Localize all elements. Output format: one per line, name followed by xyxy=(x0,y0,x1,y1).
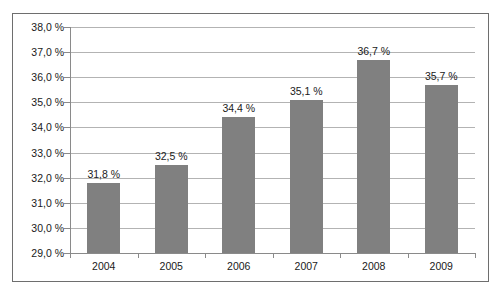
x-axis-tick-mark xyxy=(138,253,139,258)
bar-value-label-2005: 32,5 % xyxy=(141,151,201,162)
gridline xyxy=(70,102,475,103)
y-axis-tick-mark xyxy=(64,77,70,78)
bar-2009[interactable] xyxy=(425,85,458,253)
gridline xyxy=(70,52,475,53)
x-axis-label-2004: 2004 xyxy=(74,261,134,272)
y-axis-line xyxy=(70,27,71,254)
bar-2007[interactable] xyxy=(290,100,323,253)
bar-2005[interactable] xyxy=(155,165,188,253)
x-axis-tick-mark xyxy=(340,253,341,258)
x-axis-tick-mark xyxy=(273,253,274,258)
y-axis-tick-label: 35,0 % xyxy=(6,97,64,108)
bar-value-label-2006: 34,4 % xyxy=(209,103,269,114)
y-axis-tick-mark xyxy=(64,27,70,28)
gridline xyxy=(70,127,475,128)
plot-area xyxy=(70,27,475,253)
bar-2008[interactable] xyxy=(357,60,390,253)
y-axis-tick-mark xyxy=(64,228,70,229)
gridline xyxy=(70,27,475,28)
x-axis-label-2007: 2007 xyxy=(276,261,336,272)
y-axis-tick-mark xyxy=(64,178,70,179)
bar-value-label-2008: 36,7 % xyxy=(344,46,404,57)
y-axis-tick-labels: 38,0 %37,0 %36,0 %35,0 %34,0 %33,0 %32,0… xyxy=(4,0,64,294)
bar-2006[interactable] xyxy=(222,117,255,253)
y-axis-tick-label: 33,0 % xyxy=(6,148,64,159)
x-axis-label-2005: 2005 xyxy=(141,261,201,272)
x-axis-tick-mark xyxy=(475,253,476,258)
y-axis-tick-mark xyxy=(64,102,70,103)
gridline xyxy=(70,228,475,229)
y-axis-tick-label: 29,0 % xyxy=(6,248,64,259)
y-axis-tick-mark xyxy=(64,52,70,53)
x-axis-label-2009: 2009 xyxy=(411,261,471,272)
y-axis-tick-mark xyxy=(64,127,70,128)
bar-chart-figure: 38,0 %37,0 %36,0 %35,0 %34,0 %33,0 %32,0… xyxy=(0,0,501,294)
x-axis-tick-mark xyxy=(205,253,206,258)
y-axis-tick-label: 32,0 % xyxy=(6,173,64,184)
bar-value-label-2007: 35,1 % xyxy=(276,86,336,97)
y-axis-tick-label: 37,0 % xyxy=(6,47,64,58)
gridline xyxy=(70,203,475,204)
bar-2004[interactable] xyxy=(87,183,120,253)
x-axis-tick-mark xyxy=(408,253,409,258)
y-axis-tick-label: 36,0 % xyxy=(6,72,64,83)
bar-value-label-2004: 31,8 % xyxy=(74,169,134,180)
y-axis-tick-label: 34,0 % xyxy=(6,122,64,133)
x-axis-label-2008: 2008 xyxy=(344,261,404,272)
y-axis-tick-label: 30,0 % xyxy=(6,223,64,234)
y-axis-tick-mark xyxy=(64,153,70,154)
y-axis-tick-label: 31,0 % xyxy=(6,198,64,209)
x-axis-label-2006: 2006 xyxy=(209,261,269,272)
x-axis-tick-mark xyxy=(70,253,71,258)
y-axis-tick-mark xyxy=(64,203,70,204)
y-axis-tick-label: 38,0 % xyxy=(6,22,64,33)
bar-value-label-2009: 35,7 % xyxy=(411,71,471,82)
gridline xyxy=(70,153,475,154)
